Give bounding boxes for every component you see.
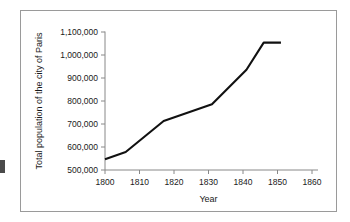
x-tick-label: 1860 bbox=[303, 177, 322, 187]
x-tick-label: 1830 bbox=[199, 177, 218, 187]
x-tick-label: 1820 bbox=[165, 177, 184, 187]
x-tick-label: 1810 bbox=[130, 177, 149, 187]
chart-frame: 500,000600,000700,000800,000900,0001,000… bbox=[20, 10, 337, 212]
x-tick-label: 1850 bbox=[268, 177, 287, 187]
x-axis-title: Year bbox=[199, 194, 217, 204]
page-edge-artifact bbox=[0, 160, 5, 173]
y-tick-label: 800,000 bbox=[67, 96, 98, 106]
line-chart: 500,000600,000700,000800,000900,0001,000… bbox=[21, 11, 336, 211]
figure-root: 500,000600,000700,000800,000900,0001,000… bbox=[0, 0, 350, 222]
y-tick-label: 700,000 bbox=[67, 119, 98, 129]
y-axis-title: Total population of the city of Paris bbox=[34, 32, 44, 170]
y-tick-label: 1,000,000 bbox=[60, 50, 98, 60]
y-tick-label: 900,000 bbox=[67, 73, 98, 83]
x-tick-label: 1840 bbox=[234, 177, 253, 187]
data-line-paris-population bbox=[105, 43, 281, 160]
x-tick-label: 1800 bbox=[96, 177, 115, 187]
y-tick-label: 600,000 bbox=[67, 142, 98, 152]
y-tick-label: 1,100,000 bbox=[60, 27, 98, 37]
y-tick-label: 500,000 bbox=[67, 165, 98, 175]
